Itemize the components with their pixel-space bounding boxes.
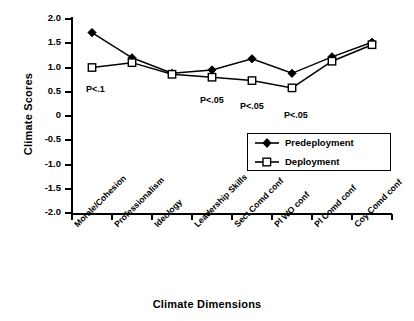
x-axis-title: Climate Dimensions	[0, 298, 414, 310]
p-value-annotation: P<.05	[284, 110, 308, 120]
p-value-annotation: P<.1	[86, 84, 105, 94]
filled-diamond-marker-icon	[254, 137, 280, 149]
open-square-marker-icon	[254, 156, 280, 168]
data-point-marker	[128, 59, 135, 66]
data-point-marker	[208, 66, 216, 74]
legend-item-predeployment: Predeployment	[254, 136, 384, 150]
legend-label-predeployment: Predeployment	[285, 137, 354, 148]
data-point-marker	[368, 41, 375, 48]
data-point-marker	[248, 77, 255, 84]
data-point-marker	[328, 57, 335, 64]
data-point-marker	[88, 28, 96, 36]
climate-scores-line-chart: Climate Scores 2.01.51.00.50-0.5-1.0-1.5…	[0, 0, 414, 321]
data-point-marker	[168, 71, 175, 78]
legend: Predeployment Deployment	[247, 133, 391, 171]
data-point-marker	[288, 84, 295, 91]
legend-item-deployment: Deployment	[254, 155, 384, 169]
data-point-marker	[88, 64, 95, 71]
p-value-annotation: P<.05	[200, 95, 224, 105]
p-value-annotation: P<.05	[240, 101, 264, 111]
series-line-predeployment	[92, 33, 372, 74]
data-point-marker	[288, 69, 296, 77]
data-point-marker	[208, 74, 215, 81]
legend-label-deployment: Deployment	[285, 156, 339, 167]
data-point-marker	[248, 55, 256, 63]
